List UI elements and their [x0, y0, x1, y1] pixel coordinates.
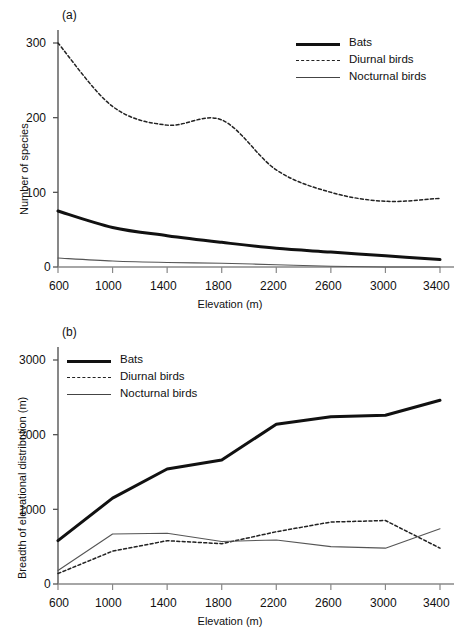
series-line-diurnal-birds [58, 43, 440, 201]
figure-species-elevation: (a) Number of species 300 200 100 0 600 … [0, 0, 454, 635]
panel-b-plot [0, 317, 454, 635]
panel-a: (a) Number of species 300 200 100 0 600 … [0, 0, 454, 318]
series-line-diurnal-birds [58, 521, 440, 574]
panel-a-plot [0, 0, 454, 318]
series-line-bats [58, 400, 440, 540]
series-line-nocturnal-birds [58, 258, 440, 267]
series-line-nocturnal-birds [58, 529, 440, 571]
series-line-bats [58, 211, 440, 260]
panel-b: (b) Breadth of elevational distribution … [0, 317, 454, 635]
